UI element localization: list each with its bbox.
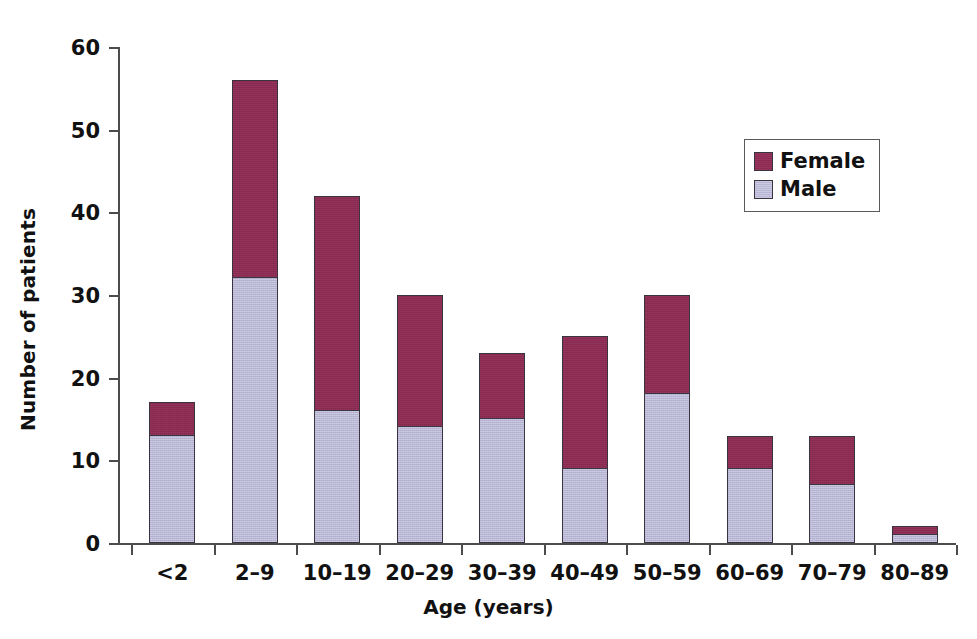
bar-stack <box>644 295 690 543</box>
bar-stack <box>149 402 195 543</box>
y-axis-title: Number of patients <box>0 0 56 639</box>
bar-segment-female <box>397 295 443 427</box>
bar-segment-male <box>232 278 278 543</box>
plot-area: 0102030405060 <22–910–1920–2930–3940–495… <box>118 41 956 544</box>
x-tick <box>956 545 958 555</box>
y-tick-label: 30 <box>71 284 100 308</box>
y-tick: 40 <box>109 212 118 214</box>
bar-segment-male <box>727 469 773 543</box>
bar-segment-female <box>149 402 195 435</box>
bar-segment-female <box>892 526 938 534</box>
bar-segment-male <box>644 394 690 543</box>
legend-swatch-female-icon <box>754 152 773 171</box>
y-tick: 30 <box>109 295 118 297</box>
x-tick <box>709 545 711 555</box>
bar-stack <box>314 196 360 543</box>
x-tick <box>791 545 793 555</box>
bar-segment-male <box>479 419 525 543</box>
bar-segment-male <box>397 427 443 543</box>
x-tick <box>544 545 546 555</box>
bar-stack <box>397 295 443 543</box>
x-tick <box>131 545 133 555</box>
x-tick-label: 2–9 <box>235 561 275 585</box>
bar-segment-female <box>562 336 608 468</box>
y-tick-label: 20 <box>71 367 100 391</box>
x-tick-label: 20–29 <box>385 561 454 585</box>
bar-segment-female <box>314 196 360 411</box>
x-tick <box>296 545 298 555</box>
x-tick <box>379 545 381 555</box>
legend-label-male: Male <box>780 179 837 200</box>
legend-item-female: Female <box>754 147 865 175</box>
y-axis-line <box>118 47 120 544</box>
bar-segment-male <box>809 485 855 543</box>
y-tick-label: 60 <box>71 36 100 60</box>
x-tick <box>626 545 628 555</box>
legend-swatch-male-icon <box>754 180 773 199</box>
y-tick: 60 <box>109 47 118 49</box>
bar-stack <box>562 336 608 543</box>
y-tick-label: 0 <box>85 532 100 556</box>
y-tick: 10 <box>109 460 118 462</box>
x-tick-label: 40–49 <box>550 561 619 585</box>
legend-label-female: Female <box>780 151 865 172</box>
bar-segment-male <box>562 469 608 543</box>
bar-stack <box>232 80 278 543</box>
bar-stack <box>727 436 773 543</box>
y-tick-label: 40 <box>71 201 100 225</box>
x-tick-label: 30–39 <box>468 561 537 585</box>
x-tick-label: 10–19 <box>303 561 372 585</box>
bar-segment-female <box>809 436 855 486</box>
x-axis-line <box>118 543 956 545</box>
y-tick-label: 50 <box>71 119 100 143</box>
bar-segment-female <box>644 295 690 394</box>
y-tick: 50 <box>109 130 118 132</box>
y-tick: 20 <box>109 378 118 380</box>
bar-segment-male <box>892 535 938 543</box>
bar-segment-male <box>149 436 195 543</box>
legend: Female Male <box>744 139 880 212</box>
x-tick-label: 60–69 <box>715 561 784 585</box>
y-tick: 0 <box>109 543 118 545</box>
x-tick <box>214 545 216 555</box>
bar-stack <box>479 353 525 543</box>
bar-segment-male <box>314 411 360 543</box>
bar-stack <box>809 436 855 543</box>
x-axis-title: Age (years) <box>0 595 977 619</box>
x-tick <box>874 545 876 555</box>
bar-stack <box>892 526 938 543</box>
x-tick-label: 80–89 <box>880 561 949 585</box>
x-tick-label: 50–59 <box>633 561 702 585</box>
bar-segment-female <box>727 436 773 469</box>
x-tick-label: 70–79 <box>798 561 867 585</box>
legend-item-male: Male <box>754 175 865 203</box>
chart-figure: Number of patients 0102030405060 <22–910… <box>0 0 977 639</box>
y-tick-label: 10 <box>71 449 100 473</box>
bar-segment-female <box>479 353 525 419</box>
bar-segment-female <box>232 80 278 278</box>
x-tick-label: <2 <box>156 561 188 585</box>
x-tick <box>461 545 463 555</box>
